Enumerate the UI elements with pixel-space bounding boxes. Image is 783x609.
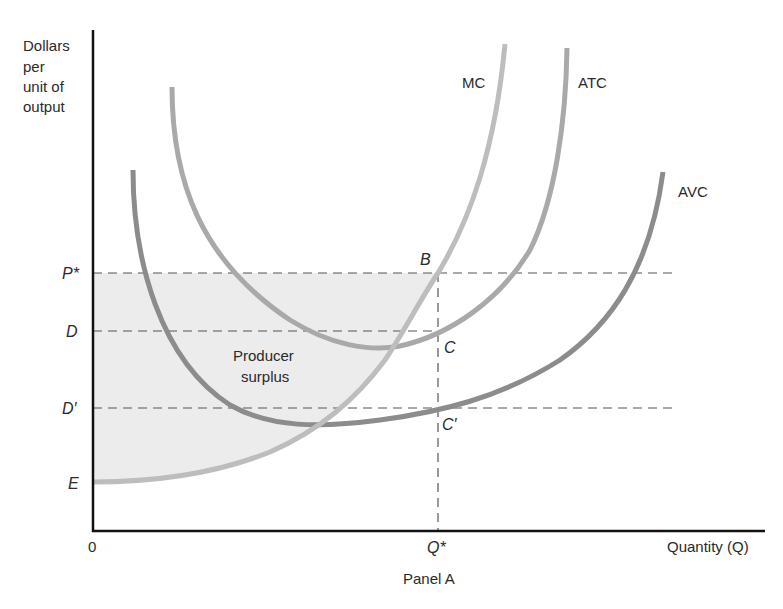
avc-label: AVC — [678, 183, 708, 200]
origin-label: 0 — [88, 538, 96, 555]
x-axis-label: Quantity (Q) — [667, 538, 749, 555]
point-b-label: B — [420, 251, 431, 268]
panel-label: Panel A — [403, 570, 455, 587]
mc-label: MC — [462, 74, 485, 91]
tick-d-prime: D′ — [62, 400, 78, 417]
tick-e: E — [68, 475, 79, 492]
y-axis-label: Dollars per unit of output — [23, 37, 74, 115]
atc-label: ATC — [578, 74, 607, 91]
producer-surplus-chart: Dollars per unit of output P* D D′ E 0 Q… — [0, 0, 783, 609]
point-c-prime-label: C′ — [442, 416, 458, 433]
tick-p-star: P* — [62, 265, 80, 282]
tick-d: D — [66, 323, 78, 340]
tick-q-star: Q* — [427, 539, 446, 556]
point-c-label: C — [444, 339, 456, 356]
